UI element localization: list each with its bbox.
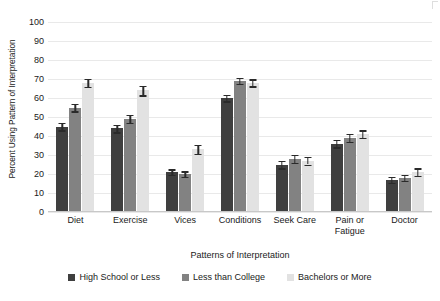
bar-column (192, 22, 204, 212)
bar-group (158, 22, 213, 212)
error-bar (143, 86, 144, 96)
x-axis-line (48, 211, 432, 212)
bar-column (111, 22, 123, 212)
error-bar-cap-top (401, 175, 408, 176)
x-axis-tick-label: Diet (48, 215, 103, 247)
error-bar-cap-bottom (59, 130, 66, 131)
bar-column (56, 22, 68, 212)
y-axis-tick-label: 30 (18, 151, 44, 160)
error-bar-cap-top (114, 125, 121, 126)
error-bar-cap-bottom (250, 86, 257, 87)
legend-item[interactable]: High School or Less (68, 272, 160, 282)
bar-column (344, 22, 356, 212)
x-axis-tick-label: Doctor (377, 215, 432, 247)
y-axis-tick-label: 70 (18, 75, 44, 84)
bar-column (276, 22, 288, 212)
bar-column (412, 22, 424, 212)
legend-item-label: High School or Less (79, 272, 160, 282)
x-axis-title: Patterns of Interpretation (48, 250, 432, 260)
y-axis-title: Percent Using Pattern of Interpretation (7, 9, 17, 209)
y-axis-tick-label: 60 (18, 94, 44, 103)
error-bar-cap-bottom (237, 84, 244, 85)
y-axis-tick-label: 50 (18, 113, 44, 122)
bar (302, 161, 314, 212)
error-bar-cap-top (359, 130, 366, 131)
legend-swatch-icon (287, 274, 294, 281)
bar-column (137, 22, 149, 212)
error-bar-cap-top (195, 145, 202, 146)
legend-item-label: Less than College (193, 272, 265, 282)
bar (344, 138, 356, 212)
bar (357, 134, 369, 212)
bar-column (331, 22, 343, 212)
error-bar-cap-bottom (388, 183, 395, 184)
bar-column (69, 22, 81, 212)
bar (166, 172, 178, 212)
y-axis-tick-label: 100 (18, 18, 44, 27)
error-bar-cap-top (127, 115, 134, 116)
y-axis-tick-label: 20 (18, 170, 44, 179)
bar (399, 178, 411, 212)
bar-chart-figure: Percent Using Pattern of Interpretation … (0, 0, 440, 301)
error-bar-cap-bottom (127, 123, 134, 124)
bar (179, 174, 191, 212)
error-bar-cap-bottom (359, 138, 366, 139)
y-axis-tick-label: 90 (18, 37, 44, 46)
x-axis-tick-label: Pain or Fatigue (322, 215, 377, 247)
error-bar-cap-bottom (195, 154, 202, 155)
error-bar-cap-top (291, 155, 298, 156)
bar-column (386, 22, 398, 212)
y-axis-tick-label: 10 (18, 189, 44, 198)
bar (221, 98, 233, 212)
error-bar-cap-top (414, 168, 421, 169)
error-bar-cap-bottom (304, 165, 311, 166)
error-bar-cap-top (304, 157, 311, 158)
gridline (48, 212, 432, 213)
error-bar-cap-top (182, 171, 189, 172)
bar-group (377, 22, 432, 212)
error-bar-cap-bottom (72, 111, 79, 112)
bar (276, 165, 288, 213)
bar (386, 180, 398, 212)
bar (331, 144, 343, 212)
error-bar-cap-bottom (414, 176, 421, 177)
error-bar-cap-bottom (140, 95, 147, 96)
error-bar-cap-top (278, 161, 285, 162)
chart-legend: High School or LessLess than CollegeBach… (0, 272, 440, 282)
bar-groups (48, 22, 432, 212)
y-axis-tick-label: 0 (18, 208, 44, 217)
bar-group (322, 22, 377, 212)
x-axis-tick-label: Seek Care (267, 215, 322, 247)
bar-column (124, 22, 136, 212)
bar (111, 128, 123, 212)
bar (289, 159, 301, 212)
bar-column (234, 22, 246, 212)
x-axis-tick-labels: DietExerciseVicesConditionsSeek CarePain… (48, 215, 432, 247)
error-bar-cap-top (85, 79, 92, 80)
y-axis-tick-label: 40 (18, 132, 44, 141)
error-bar-cap-top (333, 140, 340, 141)
legend-item[interactable]: Less than College (182, 272, 265, 282)
bar-column (302, 22, 314, 212)
bar (124, 119, 136, 212)
legend-item[interactable]: Bachelors or More (287, 272, 372, 282)
page-corner-mark (432, 1, 438, 9)
bar-column (166, 22, 178, 212)
bar-column (247, 22, 259, 212)
error-bar-cap-bottom (182, 177, 189, 178)
bar-group (103, 22, 158, 212)
error-bar-cap-bottom (114, 132, 121, 133)
bar (69, 108, 81, 213)
error-bar-cap-top (237, 78, 244, 79)
bar-group (48, 22, 103, 212)
bar (412, 172, 424, 212)
error-bar-cap-top (169, 169, 176, 170)
error-bar-cap-top (224, 95, 231, 96)
legend-swatch-icon (182, 274, 189, 281)
error-bar-cap-top (59, 123, 66, 124)
error-bar-cap-top (346, 134, 353, 135)
bar (247, 83, 259, 212)
legend-item-label: Bachelors or More (298, 272, 372, 282)
bar (234, 81, 246, 212)
error-bar-cap-bottom (291, 163, 298, 164)
